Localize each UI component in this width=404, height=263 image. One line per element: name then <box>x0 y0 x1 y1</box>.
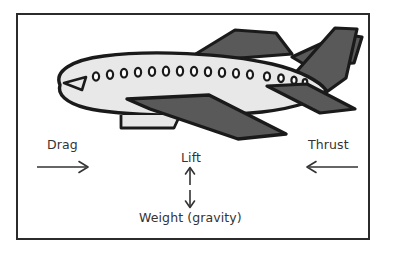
force-label-drag: Drag <box>47 139 78 152</box>
force-label-weight: Weight (gravity) <box>139 212 242 225</box>
force-label-lift: Lift <box>181 152 201 165</box>
arrow-left-icon <box>303 160 359 174</box>
force-label-thrust: Thrust <box>308 139 349 152</box>
arrow-right-icon <box>36 160 92 174</box>
airplane-illustration <box>24 16 364 141</box>
arrow-up-icon <box>183 166 197 186</box>
four-forces-of-flight-diagram: Drag Thrust Lift Weight (gravity) <box>0 0 404 263</box>
arrow-down-icon <box>183 189 197 209</box>
